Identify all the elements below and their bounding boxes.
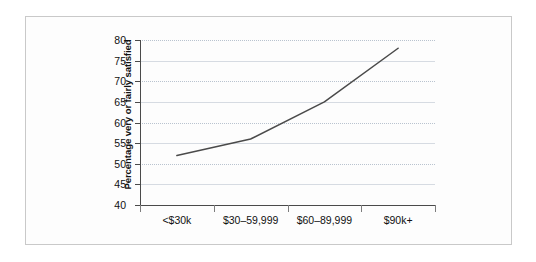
y-axis-tick <box>135 61 140 62</box>
y-axis <box>140 40 141 206</box>
x-axis-tick <box>214 205 215 212</box>
y-axis-tick-label: 45 <box>92 179 126 190</box>
line-series-svg <box>140 40 435 205</box>
y-axis-tick-label: 80 <box>92 35 126 46</box>
y-axis-tick <box>135 184 140 185</box>
y-axis-tick <box>135 81 140 82</box>
x-axis-tick-label: $30–59,999 <box>214 215 288 226</box>
y-axis-tick <box>135 102 140 103</box>
x-axis-tick <box>140 205 141 212</box>
x-axis-tick-label: $90k+ <box>361 215 435 226</box>
x-axis-tick-label: $60–89,999 <box>288 215 362 226</box>
y-axis-tick-label: 65 <box>92 97 126 108</box>
x-axis-tick-label: <$30k <box>140 215 214 226</box>
x-axis-tick <box>435 205 436 212</box>
y-axis-tick-label: 40 <box>92 200 126 211</box>
chart-figure: Percentage very or fairly satisfied 8075… <box>0 0 536 262</box>
y-axis-tick-label: 75 <box>92 56 126 67</box>
y-axis-tick-label: 55 <box>92 138 126 149</box>
y-axis-tick-label: 50 <box>92 159 126 170</box>
y-axis-tick-label: 60 <box>92 118 126 129</box>
plot-area <box>140 40 435 205</box>
y-axis-tick <box>135 143 140 144</box>
y-axis-tick <box>135 164 140 165</box>
y-axis-tick <box>135 123 140 124</box>
x-axis-tick <box>361 205 362 212</box>
x-axis-tick <box>288 205 289 212</box>
y-axis-tick <box>135 40 140 41</box>
line-series-path <box>177 48 398 155</box>
y-axis-tick-label: 70 <box>92 76 126 87</box>
